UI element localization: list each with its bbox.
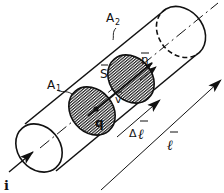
cylinder-left-end: [6, 115, 72, 182]
label-i: i: [4, 178, 9, 193]
label-S: S: [100, 67, 108, 81]
label-delta: Δ: [129, 127, 137, 140]
cylinder-right-end-back: [156, 9, 196, 58]
label-A2-sub: 2: [115, 18, 120, 27]
current-i-arrow[interactable]: [9, 152, 33, 172]
label-v: v: [115, 93, 122, 106]
label-A1-sub: 1: [56, 84, 61, 93]
label-A2: A: [106, 11, 115, 25]
label-n: n: [141, 53, 149, 67]
cylinder: [6, 6, 205, 181]
label-l: ℓ: [167, 137, 173, 153]
charge-q-dot: [93, 106, 98, 111]
A2-leader: [113, 28, 116, 40]
conductor-diagram: A 1 A 2 S n v q i Δ ℓ ℓ: [0, 0, 224, 193]
label-delta-l: ℓ: [138, 126, 144, 142]
diagram-canvas: A 1 A 2 S n v q i Δ ℓ ℓ: [0, 0, 224, 193]
label-q: q: [95, 116, 104, 130]
cylinder-right-end-front: [166, 6, 206, 55]
label-A1: A: [47, 78, 56, 92]
